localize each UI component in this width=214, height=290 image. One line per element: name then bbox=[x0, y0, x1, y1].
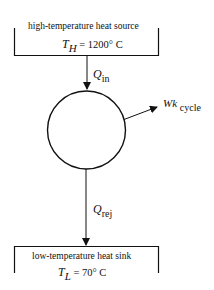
work-arrow bbox=[124, 107, 157, 120]
heat-sink-title: low-temperature heat sink bbox=[32, 252, 131, 262]
heat-sink-temperature: TL = 70° C bbox=[58, 266, 106, 282]
heat-engine-circle bbox=[48, 91, 126, 169]
work-label: Wk cycle bbox=[163, 98, 201, 113]
temp-subscript: L bbox=[65, 270, 71, 282]
heat-in-label: Qin bbox=[93, 68, 109, 84]
temp-symbol: T bbox=[62, 37, 69, 51]
temp-value: = 70° C bbox=[73, 267, 106, 278]
heat-source-temperature: TH = 1200° C bbox=[62, 38, 123, 54]
heat-source-title: high-temperature heat source bbox=[28, 22, 139, 32]
work-subscript: cycle bbox=[180, 102, 201, 113]
temp-symbol: T bbox=[58, 265, 65, 279]
heat-in-subscript: in bbox=[102, 73, 110, 84]
heat-rejected-symbol: Q bbox=[93, 202, 102, 216]
work-symbol: Wk bbox=[163, 97, 177, 109]
heat-rejected-label: Qrej bbox=[93, 203, 112, 219]
heat-rejected-subscript: rej bbox=[102, 208, 113, 219]
heat-in-symbol: Q bbox=[93, 67, 102, 81]
temp-subscript: H bbox=[69, 42, 77, 54]
temp-value: = 1200° C bbox=[79, 39, 122, 50]
